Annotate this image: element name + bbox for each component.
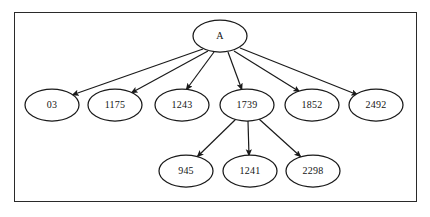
node-n1739[interactable]: 1739: [220, 89, 274, 121]
edge-A-to-n03: [72, 49, 203, 95]
node-n1852[interactable]: 1852: [285, 89, 339, 121]
edge-A-to-n1739: [228, 52, 242, 90]
nodes-group: A031175124317391852249294512412298: [25, 20, 403, 187]
edge-A-to-n1852: [234, 51, 300, 92]
node-label-n1243: 1243: [172, 99, 193, 110]
node-A[interactable]: A: [193, 20, 247, 52]
node-n2298[interactable]: 2298: [286, 155, 340, 187]
node-label-n1852: 1852: [302, 99, 323, 110]
tree-graph: A031175124317391852249294512412298: [0, 0, 430, 217]
node-label-n03: 03: [47, 99, 57, 110]
node-label-n1175: 1175: [105, 99, 125, 110]
node-n1175[interactable]: 1175: [88, 89, 142, 121]
edge-n1739-to-n2298: [259, 119, 301, 157]
node-label-n1241: 1241: [240, 165, 261, 176]
node-label-n2492: 2492: [366, 99, 387, 110]
edge-A-to-n1243: [186, 52, 214, 90]
edge-A-to-n2492: [240, 48, 358, 95]
node-n2492[interactable]: 2492: [349, 89, 403, 121]
node-label-A: A: [216, 30, 224, 41]
node-label-n1739: 1739: [237, 99, 258, 110]
node-n1243[interactable]: 1243: [155, 89, 209, 121]
node-label-n2298: 2298: [303, 165, 324, 176]
edge-n1739-to-n1241: [248, 121, 249, 156]
node-n1241[interactable]: 1241: [223, 155, 277, 187]
diagram-screenshot: A031175124317391852249294512412298: [0, 0, 430, 217]
edge-A-to-n1175: [131, 51, 208, 93]
node-label-n945: 945: [178, 165, 194, 176]
node-n945[interactable]: 945: [159, 155, 213, 187]
node-n03[interactable]: 03: [25, 89, 79, 121]
edge-n1739-to-n945: [197, 119, 236, 157]
